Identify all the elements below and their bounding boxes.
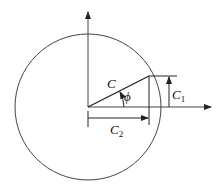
label-c2: C2 xyxy=(110,122,123,139)
phasor-diagram: C ϕ C1 C2 xyxy=(0,0,219,188)
label-c: C xyxy=(107,76,116,91)
label-c1: C1 xyxy=(172,87,185,104)
label-phi: ϕ xyxy=(124,89,131,104)
phasor-vector-c xyxy=(88,76,149,107)
